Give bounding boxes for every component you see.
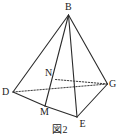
edge-D-G [13, 84, 108, 92]
vertex-label-d: D [2, 87, 9, 97]
solid-edge-group [13, 15, 108, 117]
dotted-edge-group [13, 80, 108, 93]
figure-container: BDGEMN 図2 [0, 0, 120, 137]
vertex-label-g: G [109, 79, 116, 89]
edge-B-M [45, 15, 69, 106]
vertex-label-b: B [65, 2, 72, 12]
edge-N-G [56, 80, 108, 85]
edge-B-D [13, 15, 69, 92]
edge-M-E [45, 106, 77, 117]
vertex-label-n: N [45, 68, 52, 78]
edge-D-M [13, 92, 45, 106]
edge-B-G [69, 15, 108, 84]
figure-caption: 図2 [0, 124, 120, 136]
vertex-label-m: M [40, 107, 49, 117]
edge-B-E [69, 15, 78, 117]
edge-E-G [77, 84, 108, 117]
geometry-canvas [0, 0, 120, 137]
